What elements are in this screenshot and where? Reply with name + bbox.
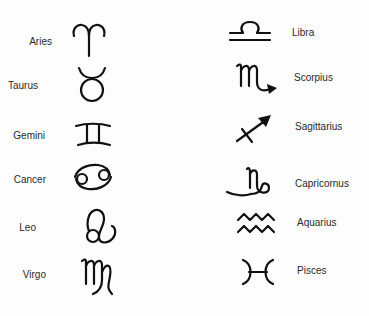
taurus-icon <box>76 66 108 104</box>
label-leo: Leo <box>0 222 36 234</box>
label-libra: Libra <box>292 27 314 39</box>
pisces-icon <box>240 258 276 286</box>
zodiac-diagram: Aries Taurus Gemini Cancer Leo <box>0 0 369 316</box>
label-taurus: Taurus <box>0 80 38 92</box>
label-scorpius: Scorpius <box>294 72 333 84</box>
scorpius-icon <box>235 62 279 96</box>
label-virgo: Virgo <box>0 269 46 281</box>
capricornus-icon <box>225 166 273 198</box>
label-sagittarius: Sagittarius <box>295 121 342 133</box>
sagittarius-icon <box>234 112 274 146</box>
label-pisces: Pisces <box>297 265 326 277</box>
aquarius-icon <box>236 211 276 235</box>
virgo-icon <box>80 256 118 298</box>
leo-icon <box>84 206 128 246</box>
aries-icon <box>70 22 108 58</box>
label-aries: Aries <box>0 36 52 48</box>
gemini-icon <box>74 122 112 148</box>
cancer-icon <box>72 163 114 191</box>
label-aquarius: Aquarius <box>297 217 336 229</box>
label-capricornus: Capricornus <box>295 178 349 190</box>
libra-icon <box>228 17 272 43</box>
label-gemini: Gemini <box>0 130 45 142</box>
label-cancer: Cancer <box>0 174 46 186</box>
